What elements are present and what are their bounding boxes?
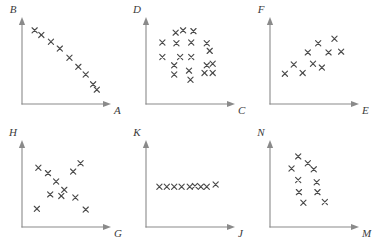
- y-axis-arrowhead: [19, 140, 25, 148]
- data-point-marker: [204, 184, 209, 189]
- data-point-marker: [186, 68, 191, 73]
- data-point-marker: [174, 41, 179, 46]
- data-point-marker: [305, 50, 310, 55]
- data-point-marker: [310, 61, 315, 66]
- data-point-marker: [204, 63, 209, 68]
- data-point-marker: [192, 183, 197, 188]
- scatter-panel-NM: NM: [248, 123, 372, 246]
- data-point-marker: [73, 195, 78, 200]
- x-axis-label: C: [238, 104, 246, 116]
- scatter-chart-KJ: KJ: [124, 123, 248, 246]
- y-axis-arrowhead: [267, 17, 273, 25]
- data-point-marker: [83, 207, 88, 212]
- data-point-marker: [296, 190, 301, 195]
- data-point-marker: [191, 29, 196, 34]
- data-point-marker: [210, 70, 215, 75]
- y-axis-arrowhead: [267, 140, 273, 148]
- x-axis-arrowhead: [227, 101, 235, 107]
- y-axis-label: D: [132, 3, 141, 15]
- scatter-chart-DC: DC: [124, 0, 248, 123]
- data-point-marker: [319, 65, 324, 70]
- x-axis-label: M: [361, 227, 372, 239]
- data-point-marker: [54, 179, 59, 184]
- data-point-marker: [332, 36, 337, 41]
- data-point-marker: [48, 192, 53, 197]
- data-point-marker: [157, 184, 162, 189]
- y-axis-label: B: [10, 3, 17, 15]
- data-point-marker: [207, 48, 212, 53]
- data-point-group: [32, 28, 99, 92]
- data-point-marker: [172, 63, 177, 68]
- x-axis-label: A: [113, 104, 121, 116]
- data-point-marker: [326, 50, 331, 55]
- x-axis-arrowhead: [103, 101, 111, 107]
- data-point-marker: [204, 41, 209, 46]
- data-point-group: [282, 36, 343, 76]
- scatter-chart-BA: BA: [0, 0, 124, 123]
- scatter-panel-DC: DC: [124, 0, 248, 123]
- scatter-panel-HG: HG: [0, 123, 124, 246]
- data-point-marker: [78, 161, 83, 166]
- data-point-marker: [305, 161, 310, 166]
- data-point-marker: [300, 70, 305, 75]
- y-axis-label: H: [8, 126, 18, 138]
- data-point-marker: [301, 200, 306, 205]
- data-point-marker: [172, 72, 177, 77]
- data-point-marker: [187, 184, 192, 189]
- data-point-marker: [188, 77, 193, 82]
- y-axis-label: F: [257, 3, 265, 15]
- data-point-marker: [62, 187, 67, 192]
- data-point-marker: [210, 61, 215, 66]
- data-point-marker: [202, 70, 207, 75]
- x-axis-arrowhead: [227, 224, 235, 230]
- data-point-marker: [34, 206, 39, 211]
- scatter-chart-NM: NM: [248, 123, 372, 246]
- data-point-marker: [198, 184, 203, 189]
- data-point-marker: [36, 165, 41, 170]
- data-point-group: [160, 28, 216, 83]
- data-point-marker: [39, 32, 44, 37]
- data-point-marker: [160, 54, 165, 59]
- data-point-group: [289, 154, 328, 206]
- x-axis-arrowhead: [103, 224, 111, 230]
- scatter-plot-grid: BADCFEHGKJNM: [0, 0, 373, 246]
- scatter-panel-FE: FE: [248, 0, 372, 123]
- data-point-marker: [71, 169, 76, 174]
- data-point-marker: [282, 71, 287, 76]
- y-axis-arrowhead: [19, 17, 25, 25]
- y-axis-arrowhead: [143, 17, 149, 25]
- data-point-marker: [296, 154, 301, 159]
- data-point-marker: [45, 171, 50, 176]
- x-axis-label: G: [114, 227, 122, 239]
- data-point-marker: [213, 182, 218, 187]
- data-point-marker: [296, 177, 301, 182]
- scatter-chart-FE: FE: [248, 0, 372, 123]
- scatter-chart-HG: HG: [0, 123, 124, 246]
- data-point-marker: [289, 166, 294, 171]
- data-point-marker: [189, 54, 194, 59]
- data-point-marker: [91, 82, 96, 87]
- data-point-marker: [94, 87, 99, 92]
- data-point-marker: [179, 184, 184, 189]
- data-point-marker: [322, 199, 327, 204]
- data-point-marker: [311, 167, 316, 172]
- data-point-marker: [172, 184, 177, 189]
- x-axis-arrowhead: [351, 101, 359, 107]
- data-point-marker: [57, 46, 62, 51]
- data-point-marker: [314, 180, 319, 185]
- data-point-marker: [189, 40, 194, 45]
- x-axis-label: E: [361, 104, 369, 116]
- data-point-marker: [32, 28, 37, 33]
- data-point-marker: [315, 190, 320, 195]
- data-point-group: [34, 161, 88, 213]
- data-point-marker: [291, 62, 296, 67]
- data-point-marker: [83, 72, 88, 77]
- data-point-marker: [59, 193, 64, 198]
- data-point-marker: [173, 30, 178, 35]
- x-axis-arrowhead: [351, 224, 359, 230]
- data-point-marker: [160, 40, 165, 45]
- data-point-marker: [339, 49, 344, 54]
- data-point-marker: [164, 184, 169, 189]
- data-point-marker: [180, 28, 185, 33]
- y-axis-arrowhead: [143, 140, 149, 148]
